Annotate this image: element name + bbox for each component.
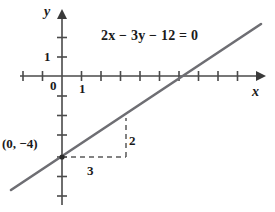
graph-figure: y x 0 1 1 2x − 3y − 12 = 0 (0, −4) 3 2 <box>0 0 275 212</box>
origin-label: 0 <box>50 79 57 92</box>
y-axis-arrowhead <box>57 9 67 19</box>
slope-run-label: 3 <box>87 164 94 177</box>
y-tick-label-1: 1 <box>44 50 51 63</box>
y-axis-label: y <box>44 5 50 19</box>
x-axis-arrowhead <box>256 71 266 81</box>
x-axis <box>20 71 266 81</box>
x-tick-label-1: 1 <box>79 82 86 95</box>
y-intercept-point <box>59 154 64 159</box>
y-intercept-label: (0, −4) <box>2 137 38 150</box>
slope-rise-label: 2 <box>129 134 136 147</box>
equation-label: 2x − 3y − 12 = 0 <box>101 29 198 43</box>
y-axis <box>57 9 67 205</box>
x-axis-label: x <box>252 85 259 99</box>
